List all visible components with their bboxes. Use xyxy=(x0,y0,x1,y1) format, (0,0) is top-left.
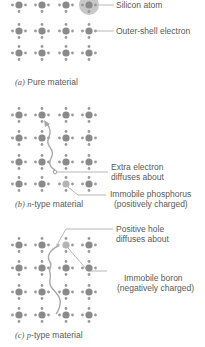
silicon-atom xyxy=(85,158,92,165)
outer-shell-electron xyxy=(24,137,27,140)
silicon-atom xyxy=(62,49,69,56)
outer-shell-electron xyxy=(94,4,97,7)
outer-shell-electron xyxy=(94,183,97,186)
outer-shell-electron xyxy=(71,137,74,140)
outer-shell-electron xyxy=(58,161,61,164)
outer-shell-electron xyxy=(88,167,91,170)
outer-shell-electron xyxy=(94,30,97,33)
silicon-atom xyxy=(85,241,92,248)
outer-shell-electron xyxy=(47,52,50,55)
outer-shell-electron xyxy=(58,267,61,270)
outer-shell-electron xyxy=(88,45,91,48)
outer-shell-electron xyxy=(58,314,61,317)
outer-shell-electron xyxy=(88,260,91,263)
leader-phosphorus xyxy=(68,187,106,195)
outer-shell-electron xyxy=(24,4,27,7)
outer-shell-electron xyxy=(41,130,44,133)
outer-shell-electron xyxy=(94,314,97,317)
outer-shell-electron xyxy=(81,52,84,55)
outer-shell-electron xyxy=(41,107,44,110)
outer-shell-electron xyxy=(94,137,97,140)
outer-shell-electron xyxy=(65,237,68,240)
outer-shell-electron xyxy=(65,45,68,48)
silicon-atom xyxy=(62,288,69,295)
silicon-atom xyxy=(85,1,92,8)
outer-shell-electron xyxy=(88,107,91,110)
outer-shell-electron xyxy=(41,250,44,253)
outer-shell-electron xyxy=(41,143,44,146)
label-diffuses-about-b: diffuses about xyxy=(111,172,164,182)
outer-shell-electron xyxy=(71,267,74,270)
outer-shell-electron xyxy=(58,114,61,117)
outer-shell-electron xyxy=(24,161,27,164)
outer-shell-electron xyxy=(34,30,37,33)
outer-shell-electron xyxy=(41,45,44,48)
outer-shell-electron xyxy=(18,307,21,310)
outer-shell-electron xyxy=(24,30,27,33)
outer-shell-electron xyxy=(58,183,61,186)
outer-shell-electron xyxy=(88,237,91,240)
hole-diffusion-path xyxy=(48,246,60,314)
label-diffuses-about-c: diffuses about xyxy=(116,234,169,244)
silicon-atom xyxy=(15,27,22,34)
outer-shell-electron xyxy=(18,176,21,179)
outer-shell-electron xyxy=(18,58,21,61)
outer-shell-electron xyxy=(88,297,91,300)
outer-shell-electron xyxy=(24,267,27,270)
outer-shell-electron xyxy=(65,260,68,263)
outer-shell-electron xyxy=(18,36,21,39)
label-extra-electron: Extra electron xyxy=(111,162,163,172)
silicon-atom xyxy=(62,111,69,118)
silicon-atom xyxy=(85,49,92,56)
outer-shell-electron xyxy=(88,320,91,323)
silicon-atom xyxy=(85,111,92,118)
outer-shell-electron xyxy=(18,130,21,133)
outer-shell-electron xyxy=(41,320,44,323)
outer-shell-electron xyxy=(18,260,21,263)
outer-shell-electron xyxy=(71,314,74,317)
outer-shell-electron xyxy=(11,314,14,317)
silicon-atom xyxy=(85,180,92,187)
outer-shell-electron xyxy=(18,273,21,276)
dopant-atom xyxy=(62,241,69,248)
label-immobile-boron: Immobile boron xyxy=(124,273,183,283)
outer-shell-electron xyxy=(41,58,44,61)
label-negatively-charged: (negatively charged) xyxy=(117,283,194,293)
outer-shell-electron xyxy=(81,137,84,140)
outer-shell-electron xyxy=(88,273,91,276)
outer-shell-electron xyxy=(11,4,14,7)
outer-shell-electron xyxy=(41,189,44,192)
label-immobile-phosphorus: Immobile phosphorus xyxy=(110,189,191,199)
caption-a-text: Pure material xyxy=(27,77,78,87)
outer-shell-electron xyxy=(18,250,21,253)
silicon-atom xyxy=(62,264,69,271)
silicon-atom xyxy=(62,27,69,34)
silicon-atom xyxy=(15,241,22,248)
outer-shell-electron xyxy=(34,267,37,270)
outer-shell-electron xyxy=(65,273,68,276)
outer-shell-electron xyxy=(34,161,37,164)
outer-shell-electron xyxy=(94,244,97,247)
label-outer-shell-electron: Outer-shell electron xyxy=(116,26,190,36)
outer-shell-electron xyxy=(94,52,97,55)
outer-shell-electron xyxy=(18,320,21,323)
outer-shell-electron xyxy=(47,314,50,317)
panel-a-pure-lattice xyxy=(11,0,99,61)
outer-shell-electron xyxy=(88,130,91,133)
outer-shell-electron xyxy=(88,120,91,123)
outer-shell-electron xyxy=(94,161,97,164)
outer-shell-electron xyxy=(65,10,68,13)
outer-shell-electron xyxy=(71,52,74,55)
outer-shell-electron xyxy=(34,244,37,247)
outer-shell-electron xyxy=(88,58,91,61)
outer-shell-electron xyxy=(18,189,21,192)
outer-shell-electron xyxy=(65,167,68,170)
outer-shell-electron xyxy=(94,267,97,270)
label-positively-charged: (positively charged) xyxy=(114,199,188,209)
outer-shell-electron xyxy=(47,114,50,117)
outer-shell-electron xyxy=(41,284,44,287)
silicon-atom xyxy=(85,311,92,318)
outer-shell-electron xyxy=(58,137,61,140)
silicon-atom xyxy=(38,1,45,8)
outer-shell-electron xyxy=(65,143,68,146)
